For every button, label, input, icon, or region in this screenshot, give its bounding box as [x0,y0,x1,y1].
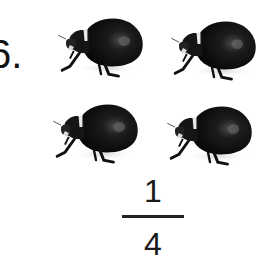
beetle-icon [50,98,142,164]
fraction-denominator: 4 [120,228,186,260]
fraction-numerator: 1 [120,175,186,207]
beetle-icon [164,100,256,166]
beetle-icon [168,15,260,81]
problem-number: 6. [0,34,22,74]
fraction: 1 4 [120,175,186,260]
beetle-icon [55,12,147,78]
fraction-bar [122,215,184,218]
